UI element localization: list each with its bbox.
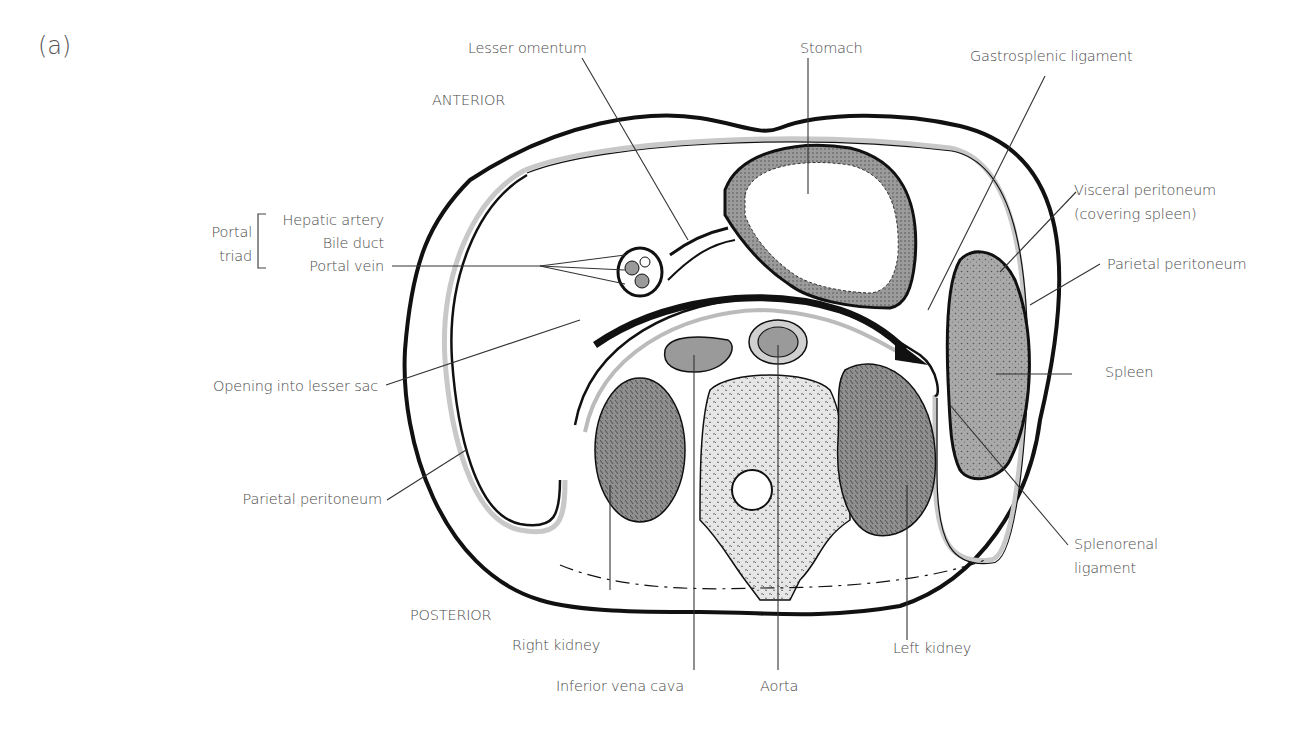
label-right-kidney: Right kidney (512, 637, 600, 654)
label-parietal-peritoneum-left: Parietal peritoneum (180, 491, 382, 508)
label-portal-vein: Portal vein (258, 258, 384, 275)
label-parietal-peritoneum-right: Parietal peritoneum (1107, 256, 1246, 273)
label-stomach: Stomach (800, 40, 863, 57)
label-spleen: Spleen (1105, 364, 1153, 381)
anatomy-figure: (a) ANTERIOR POSTERIOR Lesser omentum St… (0, 0, 1306, 729)
label-aorta: Aorta (760, 678, 798, 695)
label-portal-triad: Portal (196, 224, 252, 241)
label-lesser-omentum: Lesser omentum (468, 40, 587, 57)
spleen (947, 252, 1029, 479)
label-inferior-vena-cava: Inferior vena cava (556, 678, 684, 695)
label-hepatic-artery: Hepatic artery (258, 212, 384, 229)
label-portal-triad-sub: triad (196, 248, 252, 265)
posterior-label: POSTERIOR (410, 607, 491, 624)
label-bile-duct: Bile duct (258, 235, 384, 252)
anterior-label: ANTERIOR (432, 92, 505, 109)
label-gastrosplenic-ligament: Gastrosplenic ligament (970, 48, 1133, 65)
spinal-cord (732, 470, 772, 510)
label-left-kidney: Left kidney (893, 640, 971, 657)
label-visceral-peritoneum-sub: (covering spleen) (1074, 206, 1197, 223)
label-opening-lesser-sac: Opening into lesser sac (150, 378, 378, 395)
label-visceral-peritoneum: Visceral peritoneum (1074, 182, 1216, 199)
panel-label: (a) (38, 38, 71, 55)
label-splenorenal: Splenorenal (1074, 536, 1158, 553)
label-splenorenal-sub: ligament (1074, 560, 1136, 577)
right-kidney-shape (595, 378, 685, 522)
